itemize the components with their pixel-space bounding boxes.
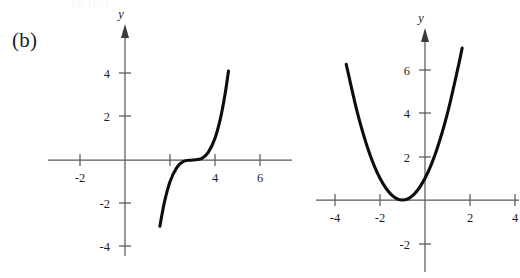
left-x-tick-label-6: 6: [257, 171, 263, 185]
left-y-axis-arrowhead: [121, 24, 129, 38]
left-y-tick-label-4: 4: [104, 67, 111, 81]
right-y-tick-label-2: 2: [404, 151, 410, 165]
right-y-axis-arrowhead: [421, 28, 429, 42]
left-y-axis-label: y: [116, 7, 124, 21]
left-x-tick-label-4: 4: [212, 171, 219, 185]
right-x-tick-label-neg2: -2: [375, 211, 385, 225]
left-y-tick-label-neg2: -2: [100, 197, 110, 211]
right-y-axis-label: y: [416, 11, 424, 25]
right-parabola-plot: y -4 -2 2 4 6 4 2 -2: [300, 0, 520, 278]
right-x-tick-label-4: 4: [512, 211, 519, 225]
left-y-tick-label-2: 2: [104, 110, 110, 124]
right-y-tick-label-4: 4: [404, 107, 411, 121]
right-y-tick-label-6: 6: [404, 64, 410, 78]
left-cubic-plot: y -2 4 6 4 2 -2 -4: [0, 0, 300, 278]
left-x-tick-label-neg2: -2: [75, 171, 85, 185]
left-plot-axes: [48, 24, 292, 256]
right-x-tick-label-2: 2: [467, 211, 473, 225]
right-x-tick-label-neg4: -4: [330, 211, 341, 225]
right-y-tick-label-neg2: -2: [400, 238, 410, 252]
left-y-tick-label-neg4: -4: [100, 240, 111, 254]
cubic-curve: [160, 71, 229, 226]
figure-container: (3, ) ( , ) (b) y -2 4 6 4 2 -2 -4: [0, 0, 520, 278]
